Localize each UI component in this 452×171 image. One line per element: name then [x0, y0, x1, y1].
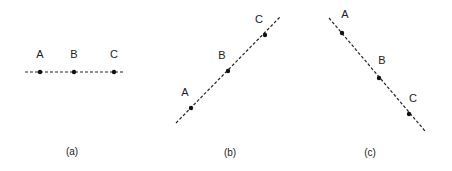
caption-c: (c): [364, 147, 376, 158]
point-c: [112, 70, 116, 74]
label-a: A: [341, 8, 349, 20]
point-a: [189, 106, 193, 110]
panel-b: A B C (b): [176, 13, 281, 158]
point-b: [377, 76, 381, 80]
caption-b: (b): [224, 147, 236, 158]
label-c: C: [255, 13, 263, 25]
point-c: [263, 33, 267, 37]
point-a: [340, 31, 344, 35]
point-c: [407, 112, 411, 116]
caption-a: (a): [66, 146, 78, 157]
label-c: C: [110, 48, 118, 60]
label-a: A: [181, 86, 189, 98]
point-a: [38, 70, 42, 74]
panel-c: A B C (c): [329, 8, 425, 158]
panel-a: A B C (a): [25, 48, 125, 157]
label-c: C: [409, 92, 417, 104]
point-b: [226, 69, 230, 73]
collinear-points-diagram: A B C (a) A B C (b) A B C (c): [0, 0, 452, 171]
label-b: B: [378, 54, 385, 66]
label-b: B: [70, 48, 77, 60]
label-a: A: [36, 48, 44, 60]
point-b: [72, 70, 76, 74]
label-b: B: [218, 49, 225, 61]
